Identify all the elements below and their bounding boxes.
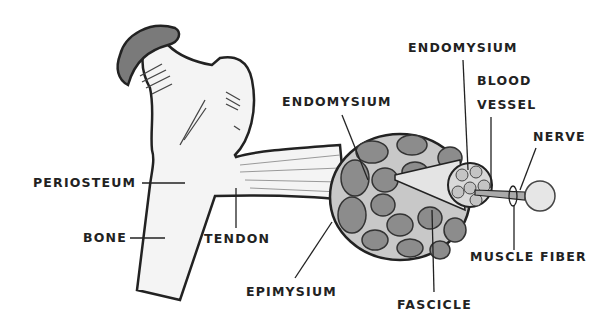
label-bone: BONE — [83, 231, 127, 245]
label-endomysium-top: ENDOMYSIUM — [408, 41, 518, 55]
label-endomysium-left: ENDOMYSIUM — [282, 95, 392, 109]
label-muscle-fiber: MUSCLE FIBER — [470, 250, 587, 264]
label-blood-vessel-2: VESSEL — [477, 98, 536, 112]
label-epimysium: EPIMYSIUM — [246, 285, 337, 299]
label-blood-vessel-1: BLOOD — [477, 74, 532, 88]
label-periosteum: PERIOSTEUM — [33, 176, 136, 190]
label-fascicle: FASCICLE — [397, 298, 472, 312]
bone-illustration — [118, 26, 345, 300]
label-tendon: TENDON — [204, 232, 270, 246]
muscle-anatomy-illustration — [0, 0, 611, 330]
label-nerve: NERVE — [533, 130, 586, 144]
muscle-cross-section — [330, 134, 555, 260]
